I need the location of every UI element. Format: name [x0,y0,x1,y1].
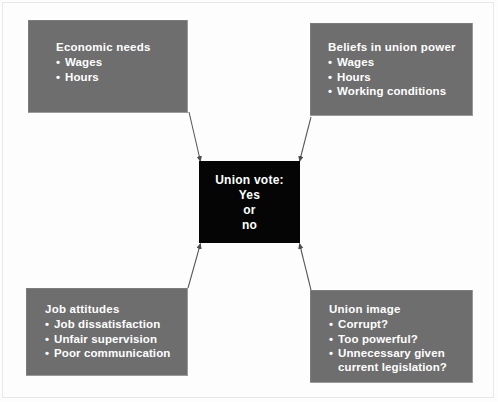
list-item: Hours [328,70,472,84]
box-union-vote-option-no: no [199,218,300,233]
box-economic-needs-list: Wages Hours [56,55,187,84]
box-union-vote-conjunction: or [199,203,300,218]
arrow-job-attitudes-to-center [188,244,201,289]
box-union-power-list: Wages Hours Working conditions [328,55,472,98]
arrow-union-image-to-center [300,244,312,291]
box-union-image-title: Union image [329,302,472,316]
box-union-image-list: Corrupt? Too powerful? Unnecessary given… [329,317,472,374]
box-union-vote: Union vote: Yes or no [199,161,300,243]
list-item: Wages [328,55,472,69]
box-union-vote-option-yes: Yes [199,188,300,203]
list-item: Wages [56,55,187,69]
arrow-union-power-to-center [300,117,312,162]
box-union-power: Beliefs in union power Wages Hours Worki… [310,23,473,116]
arrow-economic-needs-to-center [189,112,201,162]
box-union-power-title: Beliefs in union power [328,40,472,54]
list-item: Working conditions [328,84,472,98]
list-item: Too powerful? [329,332,472,346]
list-item: Corrupt? [329,317,472,331]
list-item: Hours [56,70,187,84]
box-union-vote-title: Union vote: [199,173,300,188]
list-item: Job dissatisfaction [45,317,187,331]
box-union-image: Union image Corrupt? Too powerful? Unnec… [310,290,473,383]
box-economic-needs-title: Economic needs [56,40,187,54]
box-job-attitudes-title: Job attitudes [45,302,187,316]
list-item-continuation: current legislation? [338,360,472,374]
list-item-text: Unnecessary given [338,347,445,359]
list-item: Unfair supervision [45,332,187,346]
box-economic-needs: Economic needs Wages Hours [28,20,188,113]
list-item: Poor communication [45,346,187,360]
diagram-canvas: Economic needs Wages Hours Beliefs in un… [0,0,498,402]
list-item: Unnecessary given current legislation? [329,346,472,375]
box-job-attitudes-list: Job dissatisfaction Unfair supervision P… [45,317,187,360]
box-job-attitudes: Job attitudes Job dissatisfaction Unfair… [26,288,188,376]
